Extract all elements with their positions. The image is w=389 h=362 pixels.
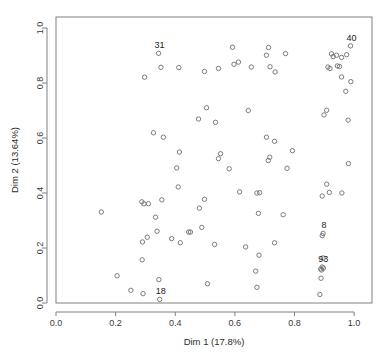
data-point	[202, 197, 206, 201]
data-point	[141, 291, 145, 295]
y-axis-tick-label: 0.8	[35, 77, 45, 90]
data-point	[169, 236, 173, 240]
data-point	[156, 51, 160, 55]
data-point	[204, 106, 208, 110]
data-point	[216, 156, 220, 160]
data-point	[151, 131, 155, 135]
data-point	[255, 285, 259, 289]
data-point	[140, 258, 144, 262]
data-point	[178, 241, 182, 245]
data-point	[324, 182, 328, 186]
data-point	[197, 206, 201, 210]
data-point	[290, 148, 294, 152]
data-point	[272, 139, 276, 143]
data-point	[218, 151, 222, 155]
data-point	[177, 65, 181, 69]
data-point	[232, 62, 236, 66]
y-axis-tick-label: 0.2	[35, 242, 45, 255]
data-point	[153, 215, 157, 219]
data-point	[346, 161, 350, 165]
data-point	[264, 53, 268, 57]
y-axis-tick-label: 0.4	[35, 187, 45, 200]
x-axis: 0.00.20.40.60.81.0	[50, 312, 361, 328]
data-point	[129, 288, 133, 292]
y-axis-title: Dim 2 (13.64%)	[9, 127, 20, 193]
y-axis-tick-label: 0.0	[35, 297, 45, 310]
data-point	[237, 190, 241, 194]
data-point	[283, 51, 287, 55]
data-point	[157, 277, 161, 281]
data-point	[175, 166, 179, 170]
data-point-label: 93	[318, 254, 328, 264]
data-point	[257, 191, 261, 195]
data-point	[264, 135, 268, 139]
data-point	[344, 89, 348, 93]
data-point	[243, 245, 247, 249]
data-point	[346, 118, 350, 122]
data-point	[339, 75, 343, 79]
data-point	[318, 292, 322, 296]
plot-canvas: 0.00.20.40.60.81.0 0.00.20.40.60.81.0 31…	[0, 0, 389, 362]
data-point	[155, 229, 159, 233]
data-point	[99, 210, 103, 214]
data-point	[140, 240, 144, 244]
data-point	[257, 253, 261, 257]
data-point	[324, 108, 328, 112]
data-point	[322, 113, 326, 117]
y-axis-tick-label: 1.0	[35, 22, 45, 35]
data-point	[230, 45, 234, 49]
data-point-label: 8	[322, 220, 327, 230]
data-point	[176, 185, 180, 189]
data-point	[213, 120, 217, 124]
y-axis-tick-label: 0.6	[35, 132, 45, 145]
x-axis-tick-label: 0.6	[229, 318, 242, 328]
data-point	[272, 241, 276, 245]
data-point	[339, 55, 343, 59]
data-point	[285, 166, 289, 170]
y-axis: 0.00.20.40.60.81.0	[35, 22, 47, 310]
data-point	[320, 194, 324, 198]
data-point	[249, 65, 253, 69]
data-points	[99, 44, 353, 302]
data-point	[227, 167, 231, 171]
scatter-plot-figure: 0.00.20.40.60.81.0 0.00.20.40.60.81.0 31…	[0, 0, 389, 362]
data-point-label: 40	[347, 33, 357, 43]
data-point	[254, 269, 258, 273]
data-point-label: 18	[156, 286, 166, 296]
data-point	[327, 190, 331, 194]
data-point	[236, 60, 240, 64]
x-axis-tick-label: 0.4	[169, 318, 182, 328]
data-point	[205, 282, 209, 286]
data-point	[159, 65, 163, 69]
data-point	[319, 276, 323, 280]
x-axis-tick-label: 0.2	[109, 318, 122, 328]
data-point	[200, 225, 204, 229]
data-point	[146, 202, 150, 206]
x-axis-tick-label: 0.0	[50, 318, 63, 328]
data-point	[115, 274, 119, 278]
x-axis-tick-label: 0.8	[288, 318, 301, 328]
point-labels: 314089318	[155, 33, 357, 297]
data-point	[158, 297, 162, 301]
data-point	[256, 211, 260, 215]
data-point	[268, 65, 272, 69]
data-point-label: 31	[155, 40, 165, 50]
data-point	[344, 52, 348, 56]
data-point	[212, 242, 216, 246]
x-axis-tick-label: 1.0	[348, 318, 361, 328]
data-point	[349, 79, 353, 83]
data-point	[161, 135, 165, 139]
data-point	[273, 70, 277, 74]
data-point	[142, 75, 146, 79]
data-point	[348, 44, 352, 48]
data-point	[340, 191, 344, 195]
data-point	[202, 69, 206, 73]
data-point	[216, 66, 220, 70]
x-axis-title: Dim 1 (17.8%)	[184, 336, 245, 347]
data-point	[177, 150, 181, 154]
data-point	[246, 108, 250, 112]
data-point	[266, 45, 270, 49]
data-point	[281, 213, 285, 217]
data-point	[145, 235, 149, 239]
data-point	[196, 117, 200, 121]
